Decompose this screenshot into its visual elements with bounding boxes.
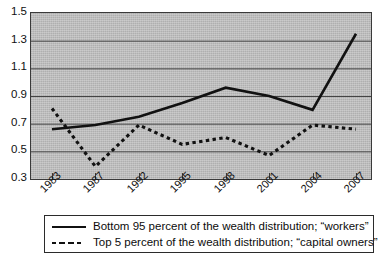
gridlines [31, 41, 371, 179]
y-axis-tick-label: 1.3 [0, 34, 27, 46]
plot-area [30, 12, 372, 180]
legend-entry-capital-owners: Top 5 percent of the wealth distribution… [52, 235, 377, 250]
legend-label-capital-owners: Top 5 percent of the wealth distribution… [93, 237, 377, 249]
series-line-workers [52, 34, 356, 129]
plot-lines-svg [31, 13, 371, 179]
y-axis-tick-label: 0.3 [0, 172, 27, 184]
legend-swatch-dashed-line [52, 237, 86, 249]
y-axis-tick-label: 0.7 [0, 117, 27, 129]
y-axis-tick-label: 1.1 [0, 61, 27, 73]
chart-legend: Bottom 95 percent of the wealth distribu… [44, 215, 374, 253]
y-axis-tick-label: 1.5 [0, 6, 27, 18]
legend-entry-workers: Bottom 95 percent of the wealth distribu… [52, 219, 369, 234]
y-axis-tick-label: 0.5 [0, 144, 27, 156]
data-series-layer [52, 34, 356, 167]
y-axis-tick-labels: 1.51.31.10.90.70.50.3 [0, 0, 28, 258]
y-axis-tick-label: 0.9 [0, 89, 27, 101]
series-line-capital-owners [52, 108, 356, 166]
legend-label-workers: Bottom 95 percent of the wealth distribu… [93, 221, 369, 233]
legend-swatch-solid-line [52, 221, 86, 233]
chart-figure: 1.51.31.10.90.70.50.3 198319871992199519… [0, 0, 383, 258]
